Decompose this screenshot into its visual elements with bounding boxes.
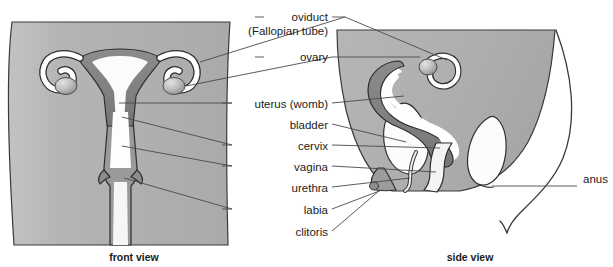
label-vagina: vagina (294, 161, 328, 173)
label-urethra: urethra (292, 182, 329, 194)
leader-labia-side (332, 190, 382, 209)
ovary-side (419, 59, 437, 75)
label-bladder: bladder (290, 119, 329, 131)
label-fallopian-tube: (Fallopian tube) (248, 25, 328, 37)
cervical-canal-front (110, 112, 131, 168)
vaginal-lumen-front (113, 182, 128, 245)
view-captions: front view side view (109, 251, 494, 263)
label-anus: anus (583, 173, 608, 185)
caption-side-view: side view (447, 251, 495, 263)
ovary-right-front (163, 78, 185, 95)
label-ovary: ovary (300, 51, 328, 63)
label-cervix: cervix (298, 140, 328, 152)
label-labia: labia (304, 204, 329, 216)
label-oviduct: oviduct (292, 11, 329, 23)
buttock-outline-tail (500, 221, 507, 233)
clitoris-side (370, 182, 379, 190)
caption-front-view: front view (109, 251, 159, 263)
ovary-left-front (55, 78, 77, 95)
label-clitoris: clitoris (295, 226, 328, 238)
leader-clitoris-side (332, 190, 380, 231)
label-uterus: uterus (womb) (255, 98, 329, 110)
anatomy-figure: oviduct (Fallopian tube) ovary uterus (w… (0, 0, 613, 267)
